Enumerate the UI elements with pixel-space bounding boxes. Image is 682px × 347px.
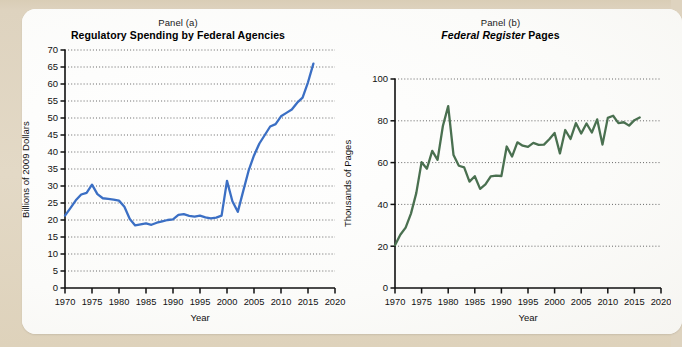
y-tick-label: 35 [47, 163, 58, 174]
x-tick-label: 1985 [464, 297, 485, 307]
x-tick-label: 1990 [163, 297, 184, 307]
y-tick-label: 10 [47, 248, 58, 259]
x-tick-label: 1975 [411, 297, 432, 307]
y-tick-label: 0 [53, 282, 58, 293]
x-tick-label: 1980 [438, 297, 459, 307]
panel-a-plot: 0510152025303540455055606570197019751980… [8, 0, 348, 325]
x-tick-label: 2000 [544, 297, 565, 307]
x-tick-label: 1995 [190, 297, 211, 307]
data-line [65, 64, 313, 226]
y-tick-label: 40 [47, 146, 58, 157]
x-tick-label: 2005 [571, 297, 592, 307]
y-tick-label: 30 [47, 180, 58, 191]
x-tick-label: 2005 [244, 297, 265, 307]
y-tick-label: 70 [47, 44, 58, 55]
y-tick-label: 60 [377, 157, 388, 168]
x-tick-label: 2015 [298, 297, 319, 307]
x-tick-label: 1990 [491, 297, 512, 307]
y-tick-label: 40 [377, 199, 388, 210]
y-tick-label: 100 [372, 73, 388, 84]
x-tick-label: 2020 [651, 297, 671, 307]
y-tick-label: 45 [47, 129, 58, 140]
x-tick-label: 2000 [217, 297, 238, 307]
data-line [395, 106, 640, 245]
y-tick-label: 50 [47, 112, 58, 123]
x-tick-label: 1970 [385, 297, 406, 307]
x-tick-label: 2010 [597, 297, 618, 307]
y-tick-label: 60 [47, 78, 58, 89]
y-tick-label: 20 [377, 241, 388, 252]
y-tick-label: 15 [47, 231, 58, 242]
panel-a: Panel (a) Regulatory Spending by Federal… [8, 0, 348, 325]
x-tick-label: 1975 [82, 297, 103, 307]
x-tick-label: 1985 [136, 297, 157, 307]
y-tick-label: 20 [47, 214, 58, 225]
y-tick-label: 25 [47, 197, 58, 208]
panel-b: Panel (b) Federal Register Pages Thousan… [330, 0, 671, 325]
y-tick-label: 65 [47, 61, 58, 72]
x-tick-label: 2015 [624, 297, 645, 307]
y-tick-label: 55 [47, 95, 58, 106]
x-tick-label: 1980 [109, 297, 130, 307]
x-tick-label: 1995 [518, 297, 539, 307]
x-tick-label: 2010 [271, 297, 292, 307]
x-tick-label: 1970 [55, 297, 76, 307]
panel-b-plot: 0204060801001970197519801985199019952000… [330, 0, 671, 325]
y-tick-label: 80 [377, 115, 388, 126]
y-tick-label: 5 [53, 265, 58, 276]
y-tick-label: 0 [383, 282, 388, 293]
